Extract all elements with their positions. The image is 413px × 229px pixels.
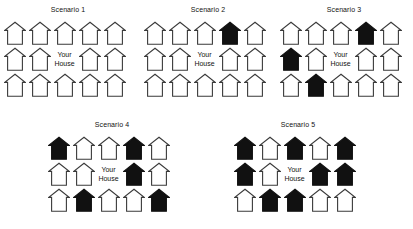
- house-outline-icon: [52, 71, 77, 97]
- house-row: [278, 19, 410, 45]
- house-row: [46, 186, 178, 212]
- house-outline-icon: [102, 45, 127, 71]
- your-house-label: YourHouse: [52, 45, 77, 71]
- house-outline-icon: [146, 160, 171, 186]
- house-outline-icon: [77, 19, 102, 45]
- your-house-label-line1: Your: [284, 166, 304, 175]
- your-house-label-line2: House: [284, 175, 304, 184]
- house-outline-icon: [71, 160, 96, 186]
- house-outline-icon: [307, 134, 332, 160]
- house-outline-icon: [378, 45, 403, 71]
- house-row: [142, 19, 274, 45]
- house-filled-icon: [232, 160, 257, 186]
- house-outline-icon: [102, 19, 127, 45]
- house-filled-icon: [282, 186, 307, 212]
- house-outline-icon: [121, 186, 146, 212]
- scenario-2-title: Scenario 2: [142, 6, 274, 14]
- scenario-1-house-grid: YourHouse: [2, 19, 134, 97]
- scenarios-figure: Scenario 1YourHouseScenario 2YourHouseSc…: [0, 0, 413, 229]
- house-outline-icon: [192, 71, 217, 97]
- house-row: YourHouse: [232, 160, 364, 186]
- your-house-label: YourHouse: [192, 45, 217, 71]
- house-outline-icon: [332, 186, 357, 212]
- house-outline-icon: [303, 45, 328, 71]
- house-row: [278, 71, 410, 97]
- house-outline-icon: [307, 186, 332, 212]
- house-outline-icon: [257, 160, 282, 186]
- house-outline-icon: [167, 71, 192, 97]
- house-outline-icon: [242, 19, 267, 45]
- house-filled-icon: [46, 134, 71, 160]
- scenario-5-title: Scenario 5: [232, 121, 364, 129]
- house-outline-icon: [192, 19, 217, 45]
- house-outline-icon: [96, 186, 121, 212]
- scenario-3-house-grid: YourHouse: [278, 19, 410, 97]
- house-filled-icon: [332, 134, 357, 160]
- house-filled-icon: [257, 186, 282, 212]
- house-outline-icon: [378, 19, 403, 45]
- house-outline-icon: [142, 71, 167, 97]
- house-outline-icon: [242, 45, 267, 71]
- house-outline-icon: [77, 45, 102, 71]
- house-filled-icon: [146, 186, 171, 212]
- your-house-label-line2: House: [330, 60, 350, 69]
- scenario-4: Scenario 4YourHouse: [46, 121, 178, 212]
- scenario-4-title: Scenario 4: [46, 121, 178, 129]
- house-row: YourHouse: [2, 45, 134, 71]
- your-house-label: YourHouse: [282, 160, 307, 186]
- house-outline-icon: [303, 19, 328, 45]
- house-outline-icon: [167, 45, 192, 71]
- house-filled-icon: [303, 71, 328, 97]
- house-row: [142, 71, 274, 97]
- house-outline-icon: [217, 45, 242, 71]
- house-outline-icon: [278, 19, 303, 45]
- your-house-label-line1: Your: [98, 166, 118, 175]
- your-house-label-line1: Your: [194, 51, 214, 60]
- house-row: [2, 71, 134, 97]
- house-outline-icon: [217, 71, 242, 97]
- house-filled-icon: [217, 19, 242, 45]
- house-row: YourHouse: [142, 45, 274, 71]
- house-outline-icon: [167, 19, 192, 45]
- house-filled-icon: [232, 134, 257, 160]
- house-outline-icon: [77, 71, 102, 97]
- house-outline-icon: [2, 45, 27, 71]
- house-outline-icon: [146, 134, 171, 160]
- your-house-label-line2: House: [194, 60, 214, 69]
- house-outline-icon: [328, 71, 353, 97]
- house-outline-icon: [102, 71, 127, 97]
- house-filled-icon: [121, 134, 146, 160]
- house-row: [232, 186, 364, 212]
- scenario-5-house-grid: YourHouse: [232, 134, 364, 212]
- house-outline-icon: [142, 19, 167, 45]
- house-outline-icon: [52, 19, 77, 45]
- scenario-2: Scenario 2YourHouse: [142, 6, 274, 97]
- scenario-5: Scenario 5YourHouse: [232, 121, 364, 212]
- house-outline-icon: [353, 45, 378, 71]
- house-outline-icon: [27, 71, 52, 97]
- house-outline-icon: [27, 19, 52, 45]
- scenario-1: Scenario 1YourHouse: [2, 6, 134, 97]
- house-row: YourHouse: [278, 45, 410, 71]
- house-outline-icon: [2, 71, 27, 97]
- house-outline-icon: [278, 71, 303, 97]
- your-house-label: YourHouse: [328, 45, 353, 71]
- house-outline-icon: [242, 71, 267, 97]
- your-house-label-line2: House: [54, 60, 74, 69]
- house-outline-icon: [142, 45, 167, 71]
- your-house-label: YourHouse: [96, 160, 121, 186]
- your-house-label-line1: Your: [330, 51, 350, 60]
- house-outline-icon: [378, 71, 403, 97]
- house-filled-icon: [278, 45, 303, 71]
- scenario-3: Scenario 3YourHouse: [278, 6, 410, 97]
- your-house-label-line2: House: [98, 175, 118, 184]
- house-filled-icon: [71, 186, 96, 212]
- house-row: [2, 19, 134, 45]
- house-outline-icon: [257, 134, 282, 160]
- your-house-label-line1: Your: [54, 51, 74, 60]
- scenario-3-title: Scenario 3: [278, 6, 410, 14]
- house-row: [232, 134, 364, 160]
- house-filled-icon: [121, 160, 146, 186]
- house-filled-icon: [353, 19, 378, 45]
- scenario-1-title: Scenario 1: [2, 6, 134, 14]
